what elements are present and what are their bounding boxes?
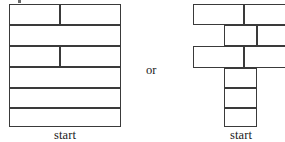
brick-row4	[9, 67, 121, 88]
brick-row1-left	[9, 4, 60, 25]
left-start-label: start	[9, 128, 121, 142]
right-start-label: start	[206, 128, 276, 142]
brick-stem-2	[224, 88, 257, 108]
brick-r1-left	[193, 4, 244, 25]
brick-row5	[9, 88, 121, 108]
brick-r1-right	[244, 4, 285, 25]
brick-stem-1	[224, 68, 257, 88]
brick-row6	[9, 108, 121, 127]
brick-r3-right	[244, 46, 285, 68]
clipped-glyph-artifact	[18, 0, 21, 3]
brick-stem-3	[224, 108, 257, 127]
brick-r2-right	[257, 25, 285, 46]
brick-row1-right	[60, 4, 121, 25]
brick-r2-left	[224, 25, 257, 46]
brick-stacking-figure: start or start	[0, 0, 285, 142]
brick-r3-left	[193, 46, 244, 68]
conjunction-or: or	[146, 63, 156, 77]
brick-row3-right	[60, 46, 121, 67]
brick-row2	[9, 25, 121, 46]
brick-row3-left	[9, 46, 60, 67]
